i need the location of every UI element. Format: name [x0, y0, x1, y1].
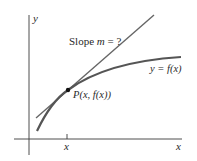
tangent-line-diagram: y Slope m = ? y = f(x) P(x, f(x)) x x [0, 0, 197, 161]
y-axis-label: y [33, 13, 38, 24]
diagram-canvas [0, 0, 197, 161]
x-tick-label: x [64, 141, 69, 152]
curve-label: y = f(x) [150, 64, 182, 75]
slope-label: Slope m = ? [69, 36, 121, 47]
point-label: P(x, f(x)) [73, 90, 111, 101]
x-axis-label: x [176, 141, 181, 152]
slope-prefix: Slope [69, 35, 97, 47]
slope-suffix: = ? [105, 35, 122, 47]
point-p [66, 88, 70, 92]
slope-variable: m [97, 35, 105, 47]
